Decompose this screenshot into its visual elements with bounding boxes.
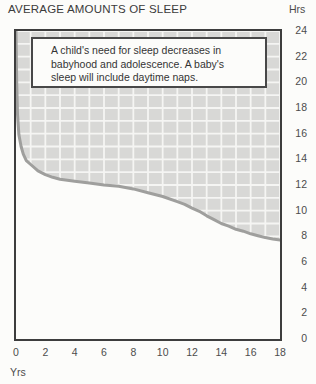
annotation-box: A child's need for sleep decreases in ba…: [31, 37, 267, 88]
y-tick-label: 8: [284, 229, 307, 241]
y-tick-label: 6: [284, 255, 307, 267]
annotation-line: A child's need for sleep decreases in: [51, 44, 261, 58]
x-tick-label: 0: [6, 346, 26, 359]
x-tick-label: 14: [211, 346, 231, 359]
y-tick-label: 2: [284, 306, 307, 318]
y-tick-label: 18: [284, 101, 307, 113]
y-tick-label: 16: [284, 127, 307, 139]
x-tick-label: 6: [94, 346, 114, 359]
x-tick-label: 4: [65, 346, 85, 359]
x-tick-label: 18: [270, 346, 290, 359]
x-tick-label: 10: [153, 346, 173, 359]
chart-title: AVERAGE AMOUNTS OF SLEEP: [8, 3, 187, 15]
x-tick-label: 2: [35, 346, 55, 359]
annotation-line: sleep will include daytime naps.: [51, 71, 261, 85]
plot-area: A child's need for sleep decreases in ba…: [14, 29, 282, 341]
sleep-chart-figure: AVERAGE AMOUNTS OF SLEEP Hrs A child's n…: [0, 0, 316, 384]
x-tick-label: 16: [241, 346, 261, 359]
y-tick-label: 0: [284, 332, 307, 344]
y-tick-label: 22: [284, 50, 307, 62]
y-tick-label: 20: [284, 75, 307, 87]
y-tick-label: 4: [284, 281, 307, 293]
x-tick-label: 8: [123, 346, 143, 359]
y-tick-label: 14: [284, 152, 307, 164]
y-tick-label: 12: [284, 178, 307, 190]
y-tick-label: 10: [284, 204, 307, 216]
x-axis-unit-label: Yrs: [10, 366, 26, 378]
annotation-line: babyhood and adolescence. A baby's: [51, 58, 261, 72]
x-tick-label: 12: [182, 346, 202, 359]
y-tick-label: 24: [284, 24, 307, 36]
y-axis-unit-label: Hrs: [289, 3, 305, 15]
